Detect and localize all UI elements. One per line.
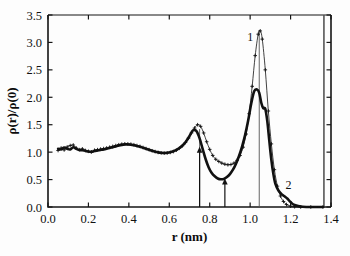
x-tick-label: 1.4 [323, 212, 339, 226]
y-tick-label: 3.5 [26, 9, 42, 23]
y-tick-label: 1.5 [26, 118, 42, 132]
x-tick-label: 0.0 [40, 212, 56, 226]
x-tick-label: 1.0 [242, 212, 258, 226]
y-tick-label: 0.5 [26, 173, 42, 187]
curve-label-2: 2 [286, 178, 292, 192]
x-tick-label: 0.2 [81, 212, 97, 226]
y-tick-label: 2.0 [26, 91, 42, 105]
plot-canvas: 0.00.20.40.60.81.01.21.40.00.51.01.52.02… [0, 0, 350, 256]
y-tick-label: 3.0 [26, 36, 42, 50]
x-tick-label: 0.8 [202, 212, 218, 226]
x-tick-label: 0.4 [121, 212, 137, 226]
x-tick-label: 0.6 [161, 212, 177, 226]
curve-label-1: 1 [247, 30, 253, 44]
y-tick-label: 0.0 [26, 201, 42, 215]
x-tick-label: 1.2 [283, 212, 299, 226]
figure-container: 0.00.20.40.60.81.01.21.40.00.51.01.52.02… [0, 0, 350, 256]
y-axis-title: ρ(r)/ρ(0) [4, 87, 19, 134]
y-tick-label: 2.5 [26, 63, 42, 77]
y-tick-label: 1.0 [26, 146, 42, 160]
x-axis-title: r (nm) [172, 229, 208, 244]
